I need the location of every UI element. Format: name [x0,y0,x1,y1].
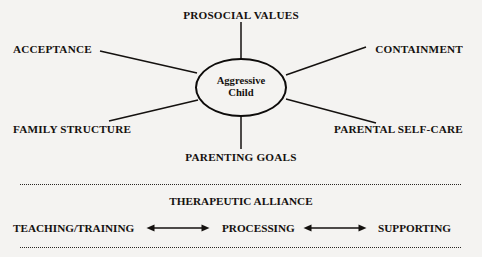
spoke-line-upper-right [286,47,366,75]
spoke-lines-group [0,0,482,257]
hub-label-line2: Child [197,88,285,101]
hub-label: Aggressive Child [197,75,285,101]
hub-ellipse: Aggressive Child [195,58,287,117]
spoke-line-lower-right [286,99,376,123]
diagram-canvas: Aggressive Child PROSOCIAL VALUES ACCEPT… [0,0,482,257]
spoke-line-upper-left [100,51,197,73]
spoke-line-lower-left [109,100,198,121]
hub-label-line1: Aggressive [197,75,285,88]
